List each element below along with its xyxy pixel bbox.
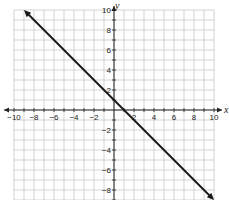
x-tick-label: −6 xyxy=(49,113,59,122)
x-tick-label: −4 xyxy=(69,113,79,122)
x-tick-label: −8 xyxy=(29,113,39,122)
x-tick-label: 6 xyxy=(172,113,177,122)
x-tick-label: −2 xyxy=(89,113,99,122)
x-tick-label: −10 xyxy=(7,113,21,122)
x-axis-left-arrow-icon xyxy=(4,108,9,113)
y-tick-label: 6 xyxy=(107,46,112,55)
x-tick-label: 10 xyxy=(210,113,219,122)
y-axis-label: y xyxy=(114,0,120,11)
x-axis-label: x xyxy=(223,104,229,115)
x-tick-label: 4 xyxy=(152,113,157,122)
x-tick-label: 8 xyxy=(192,113,197,122)
y-tick-label: 10 xyxy=(102,6,111,15)
y-tick-label: −4 xyxy=(102,146,112,155)
y-tick-label: 8 xyxy=(107,26,112,35)
y-tick-label: 4 xyxy=(107,66,112,75)
coordinate-plane: −10−8−6−4−2246810108642−2−4−6−8 x y xyxy=(0,0,229,200)
plotted-line xyxy=(24,10,214,200)
y-tick-label: −8 xyxy=(102,186,112,195)
x-axis-right-arrow-icon xyxy=(217,108,222,113)
axes xyxy=(4,6,222,200)
y-tick-label: −2 xyxy=(102,126,112,135)
y-tick-label: −6 xyxy=(102,166,112,175)
